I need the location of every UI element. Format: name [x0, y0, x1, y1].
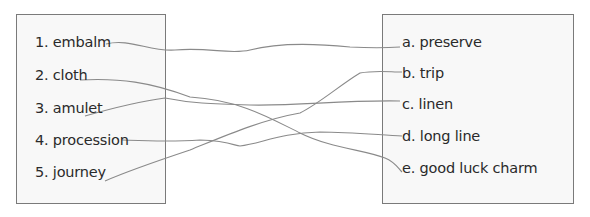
meaning-item-c: c. linen — [402, 96, 453, 112]
meaning-item-a: a. preserve — [402, 34, 482, 50]
meaning-item-d: d. long line — [402, 128, 480, 144]
meaning-item-e: e. good luck charm — [402, 160, 537, 176]
word-item-2: 2. cloth — [35, 67, 88, 83]
word-item-3: 3. amulet — [35, 100, 102, 116]
word-item-1: 1. embalm — [35, 34, 111, 50]
word-item-4: 4. procession — [35, 132, 129, 148]
meaning-item-b: b. trip — [402, 65, 444, 81]
word-item-5: 5. journey — [35, 164, 106, 180]
